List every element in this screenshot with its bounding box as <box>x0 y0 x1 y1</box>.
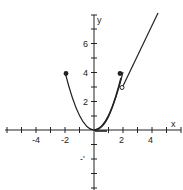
x-tick-label-4: 4 <box>148 135 153 145</box>
y-tick-label-6: 6 <box>83 39 88 49</box>
closed-point-right <box>118 71 123 76</box>
plot-area: x y -4 -2 2 4 6 4 2 -' <box>0 0 183 190</box>
x-tick-label-2: 2 <box>119 135 124 145</box>
y-axis-label: y <box>97 15 102 25</box>
parabola-right-emphasis <box>94 78 121 130</box>
graph: x y -4 -2 2 4 6 4 2 -' <box>0 0 183 190</box>
closed-point-left <box>64 71 69 76</box>
y-tick-label-2: 2 <box>83 97 88 107</box>
x-axis-label: x <box>171 119 176 129</box>
linear-ray <box>123 13 158 86</box>
y-tick-label-4: 4 <box>83 68 88 78</box>
y-tick-label-m2: -' <box>80 154 85 164</box>
x-tick-label-m4: -4 <box>32 135 40 145</box>
open-point <box>120 86 124 90</box>
x-tick-label-m2: -2 <box>61 135 69 145</box>
